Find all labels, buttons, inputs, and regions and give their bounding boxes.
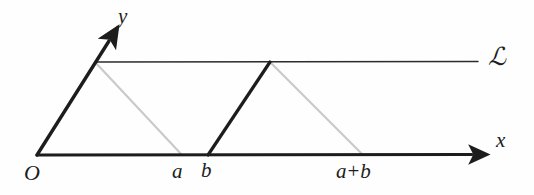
diagonal-line-1	[95, 62, 182, 155]
a-plus-b-term-b: b	[360, 159, 371, 183]
line-l	[95, 62, 478, 63]
y-axis-label: y	[118, 6, 127, 27]
diagram-canvas	[0, 0, 534, 195]
y-axis-line	[37, 41, 109, 155]
x-axis-line	[37, 155, 472, 156]
a-plus-b-term-a: a	[336, 159, 347, 183]
origin-label: O	[24, 162, 40, 184]
geometry-figure: O a b a+b x y ℒ	[0, 0, 534, 195]
line-l-label: ℒ	[488, 44, 506, 69]
point-b-label: b	[201, 160, 212, 181]
a-plus-b-operator: +	[347, 159, 361, 183]
diagonal-line-2	[270, 62, 363, 155]
point-a-label: a	[172, 161, 183, 182]
point-a-plus-b-label: a+b	[336, 161, 371, 182]
segment-b-to-top	[208, 62, 270, 155]
x-axis-label: x	[496, 130, 505, 151]
